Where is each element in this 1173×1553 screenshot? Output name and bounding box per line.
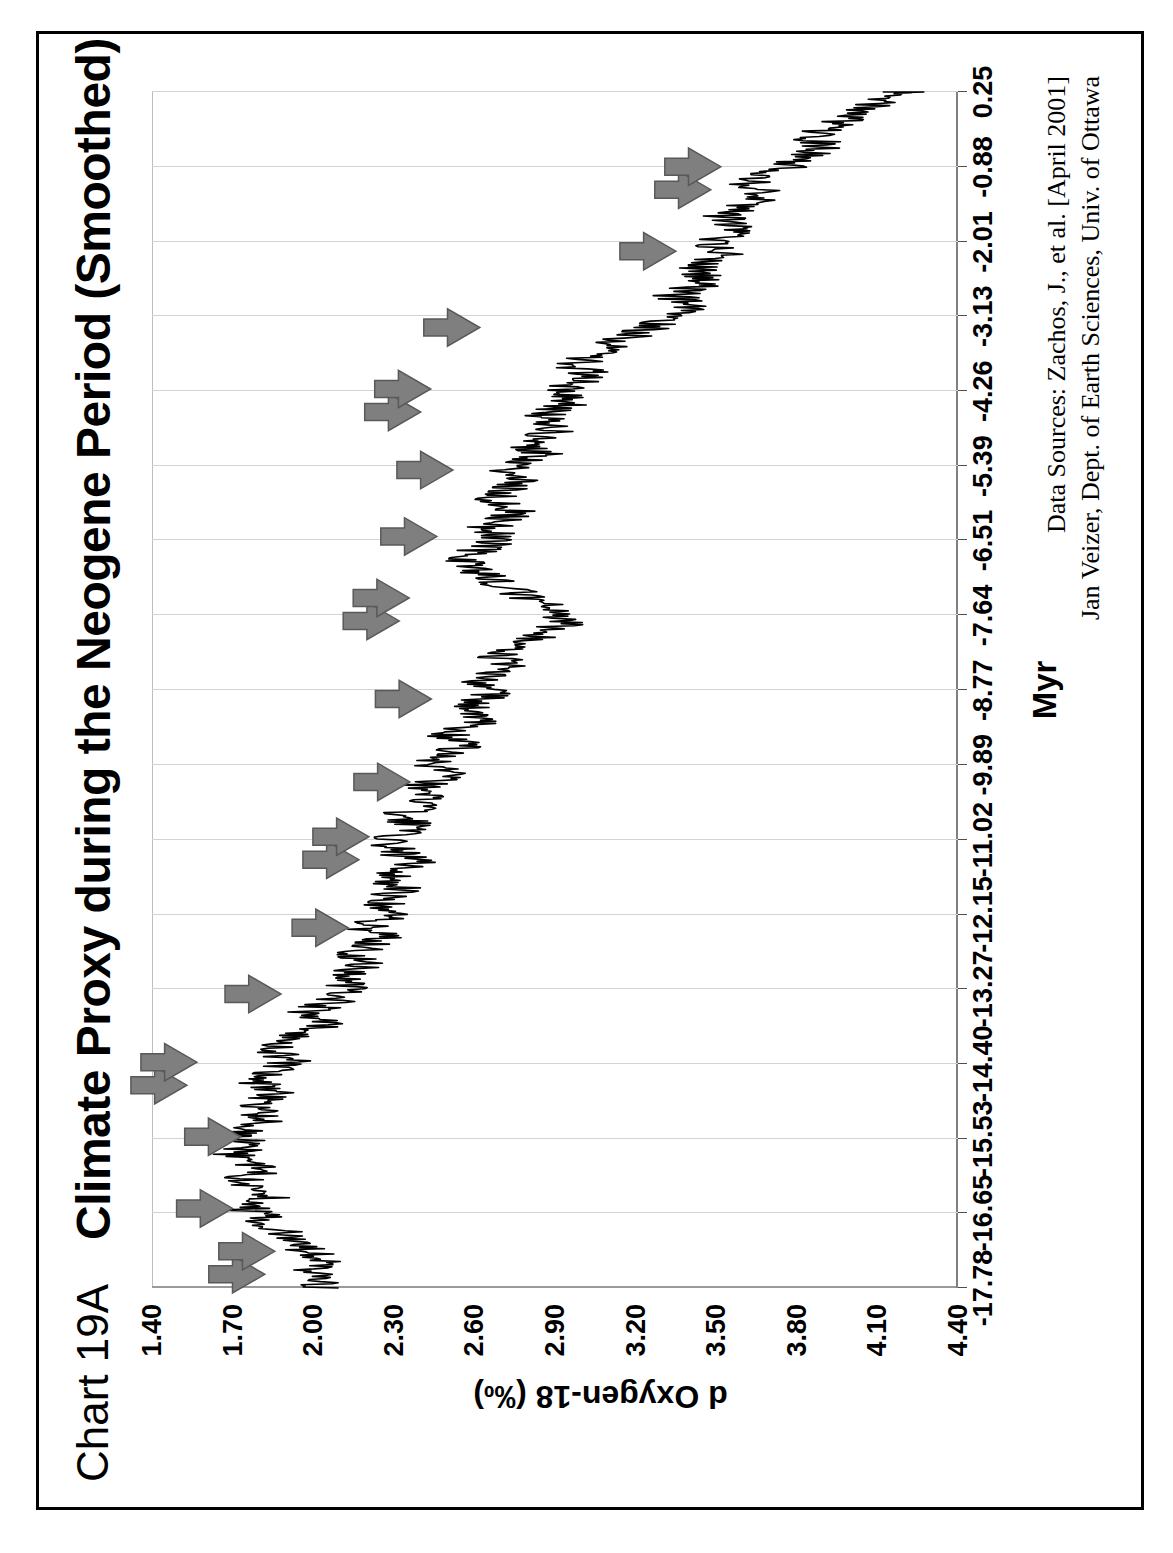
x-axis-tick — [958, 91, 967, 92]
x-axis-tick-label: -12.15 — [968, 876, 999, 953]
x-axis-tick — [958, 539, 967, 540]
x-axis-tick — [958, 913, 967, 914]
x-axis-tick-label: -0.88 — [968, 136, 999, 198]
data-source-line-1: Data Sources: Zachos, J., et al. [April … — [1040, 76, 1074, 806]
chart-figure: Chart 19A Climate Proxy during the Neoge… — [40, 36, 1140, 1506]
x-axis-tick — [958, 465, 967, 466]
x-axis-tick-label: -6.51 — [968, 509, 999, 571]
x-axis-tick-label: -5.39 — [968, 435, 999, 497]
annotation-arrow — [219, 1232, 275, 1269]
x-axis-tick — [958, 614, 967, 615]
x-axis-tick-label: -8.77 — [968, 659, 999, 721]
y-axis-tick-label: 2.00 — [298, 1304, 329, 1446]
y-axis-tick-label: 1.40 — [137, 1304, 168, 1446]
data-source-line-2: Jan Veizer, Dept. of Earth Sciences, Uni… — [1074, 76, 1108, 806]
x-axis-tick-label: 0.25 — [968, 65, 999, 118]
chart-header: Chart 19A Climate Proxy during the Neoge… — [54, 52, 132, 1482]
rotated-figure-wrapper: Chart 19A Climate Proxy during the Neoge… — [40, 36, 1140, 1506]
x-axis-tick-labels: -17.78-16.65-15.53-14.40-13.27-12.15-11.… — [968, 92, 1008, 1288]
y-axis-tick-label: 3.50 — [701, 1304, 732, 1446]
x-axis-tick — [958, 838, 967, 839]
x-axis-tick — [958, 689, 967, 690]
x-axis-tick-label: -15.53 — [968, 1100, 999, 1177]
y-axis-tick-label: 2.30 — [378, 1304, 409, 1446]
y-axis-tick-labels: d Oxygen-18 (‰) 1.401.702.002.302.602.90… — [152, 1296, 958, 1446]
x-axis-tick — [958, 390, 967, 391]
x-axis-tick-label: -7.64 — [968, 584, 999, 646]
x-axis-tick-label: -4.26 — [968, 360, 999, 422]
x-axis-tick — [958, 987, 967, 988]
x-axis-tick — [958, 240, 967, 241]
y-axis-tick-label: 2.60 — [459, 1304, 490, 1446]
annotation-arrow — [353, 579, 409, 616]
annotation-arrow-layer — [152, 92, 958, 1288]
y-axis-tick-label: 3.80 — [781, 1304, 812, 1446]
annotation-arrow — [292, 909, 348, 946]
x-axis-tick — [958, 1287, 967, 1288]
x-axis-tick-label: -11.02 — [968, 802, 999, 877]
x-axis-tick-label: -3.13 — [968, 285, 999, 347]
y-axis-tick-label: 3.20 — [620, 1304, 651, 1446]
data-sources-block: Data Sources: Zachos, J., et al. [April … — [1040, 76, 1108, 806]
annotation-arrow — [177, 1189, 233, 1226]
x-axis-tick-label: -9.89 — [968, 733, 999, 795]
annotation-arrow — [381, 517, 437, 554]
annotation-arrow — [354, 763, 410, 800]
annotation-arrow — [665, 148, 721, 185]
plot-area — [152, 92, 958, 1288]
x-axis-tick-label: -13.27 — [968, 950, 999, 1027]
annotation-arrow — [185, 1118, 241, 1155]
x-axis-tick-label: -16.65 — [968, 1174, 999, 1251]
x-axis-tick — [958, 315, 967, 316]
x-axis-tick-label: -14.40 — [968, 1025, 999, 1102]
y-axis-tick-label: 2.90 — [540, 1304, 571, 1446]
y-axis-tick-label: 1.70 — [217, 1304, 248, 1446]
chart-number-label: Chart 19A — [68, 1283, 118, 1481]
y-axis-tick-label: 4.10 — [862, 1304, 893, 1446]
annotation-arrow — [141, 1043, 197, 1080]
annotation-arrow — [375, 370, 431, 407]
x-axis-tick — [958, 763, 967, 764]
annotation-arrow — [424, 308, 480, 345]
annotation-arrow — [313, 818, 369, 855]
annotation-arrow — [397, 451, 453, 488]
x-axis-tick — [958, 165, 967, 166]
x-axis-tick — [958, 1212, 967, 1213]
annotation-arrow — [620, 232, 676, 269]
x-axis-tick — [958, 1137, 967, 1138]
annotation-arrow — [375, 680, 431, 717]
x-axis-tick-label: -2.01 — [968, 211, 999, 273]
page-title: Climate Proxy during the Neogene Period … — [66, 38, 121, 1240]
x-axis-tick — [958, 1062, 967, 1063]
annotation-arrow — [225, 975, 281, 1012]
figure-page-frame: Chart 19A Climate Proxy during the Neoge… — [36, 31, 1144, 1510]
y-axis-tick-label: 4.40 — [943, 1304, 974, 1446]
